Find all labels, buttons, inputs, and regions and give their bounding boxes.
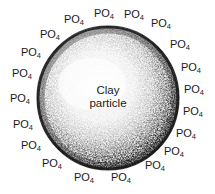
phosphate-label-subscript: 4: [140, 13, 144, 22]
phosphate-label-text: PO: [21, 46, 37, 58]
phosphate-label: PO4: [170, 39, 190, 50]
phosphate-label-text: PO: [164, 145, 180, 157]
phosphate-label-text: PO: [10, 92, 26, 104]
phosphate-label-text: PO: [42, 157, 58, 169]
particle-label-line-2: particle: [89, 97, 126, 110]
phosphate-label-subscript: 4: [37, 51, 41, 60]
phosphate-label-subscript: 4: [180, 150, 184, 159]
phosphate-label: PO4: [10, 93, 30, 104]
phosphate-label-text: PO: [124, 8, 140, 20]
phosphate-label-text: PO: [13, 118, 29, 130]
phosphate-label-text: PO: [21, 139, 37, 151]
phosphate-label-subscript: 4: [90, 176, 94, 185]
particle-label-line-1: Clay: [89, 84, 126, 97]
phosphate-label: PO4: [42, 158, 62, 169]
phosphate-label-text: PO: [111, 171, 127, 183]
phosphate-label-subscript: 4: [200, 88, 204, 97]
phosphate-label: PO4: [13, 119, 33, 130]
phosphate-label: PO4: [124, 9, 144, 20]
phosphate-label: PO4: [183, 106, 203, 117]
phosphate-label: PO4: [12, 68, 32, 79]
phosphate-label: PO4: [94, 8, 114, 19]
phosphate-label-text: PO: [176, 127, 192, 139]
phosphate-label-text: PO: [12, 67, 28, 79]
phosphate-label-subscript: 4: [161, 164, 165, 173]
phosphate-label-subscript: 4: [56, 33, 60, 42]
phosphate-label-subscript: 4: [37, 144, 41, 153]
phosphate-label-text: PO: [40, 28, 56, 40]
phosphate-label-subscript: 4: [192, 132, 196, 141]
phosphate-label: PO4: [111, 172, 131, 183]
phosphate-label-subscript: 4: [197, 66, 201, 75]
phosphate-label: PO4: [145, 160, 165, 171]
phosphate-label: PO4: [184, 84, 204, 95]
clay-particle-figure: Clay particle PO4PO4PO4PO4PO4PO4PO4PO4PO…: [0, 0, 215, 194]
phosphate-label-subscript: 4: [29, 123, 33, 132]
phosphate-label-subscript: 4: [58, 162, 62, 171]
phosphate-label: PO4: [40, 29, 60, 40]
phosphate-label-subscript: 4: [26, 97, 30, 106]
phosphate-label-text: PO: [145, 159, 161, 171]
phosphate-label: PO4: [21, 47, 41, 58]
phosphate-label-subscript: 4: [186, 43, 190, 52]
phosphate-label-text: PO: [74, 171, 90, 183]
phosphate-label-subscript: 4: [28, 72, 32, 81]
phosphate-label-subscript: 4: [110, 12, 114, 21]
phosphate-label-subscript: 4: [80, 18, 84, 27]
phosphate-label-text: PO: [94, 7, 110, 19]
phosphate-label: PO4: [64, 14, 84, 25]
phosphate-label: PO4: [164, 146, 184, 157]
phosphate-label: PO4: [74, 172, 94, 183]
phosphate-label-text: PO: [64, 13, 80, 25]
phosphate-label: PO4: [181, 62, 201, 73]
phosphate-label: PO4: [176, 128, 196, 139]
phosphate-label: PO4: [21, 140, 41, 151]
phosphate-label: PO4: [151, 18, 171, 29]
phosphate-label-subscript: 4: [199, 110, 203, 119]
phosphate-label-text: PO: [170, 38, 186, 50]
phosphate-label-text: PO: [183, 105, 199, 117]
phosphate-label-subscript: 4: [127, 176, 131, 185]
phosphate-label-subscript: 4: [167, 22, 171, 31]
particle-center-label: Clay particle: [89, 84, 126, 110]
phosphate-label-text: PO: [184, 83, 200, 95]
phosphate-label-text: PO: [181, 61, 197, 73]
phosphate-label-text: PO: [151, 17, 167, 29]
